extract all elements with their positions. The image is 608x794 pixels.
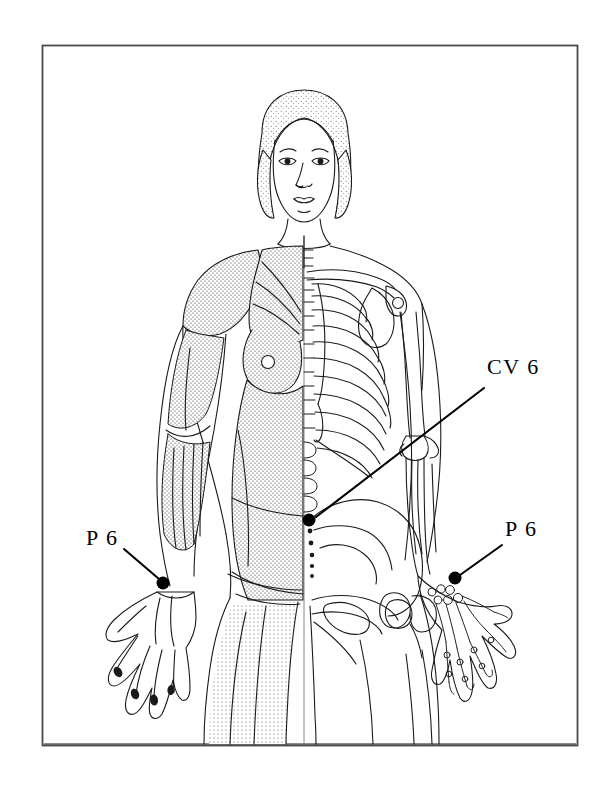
nipple [262,356,275,369]
right-torso-contour [422,304,424,390]
left-nail-1 [112,665,125,679]
mouth-lower [294,199,314,203]
left-nail-2 [129,687,140,700]
hair-right-lobe [335,150,352,218]
costal-margin [316,440,368,476]
left-leg-mass [209,602,298,744]
anatomy-illustration [0,0,608,794]
left-finger-line-2 [136,646,150,694]
left-waist-contour [226,534,231,598]
left-wrist-band [157,592,194,598]
body-figure [106,90,516,744]
humerus-shaft-lateral [401,312,410,438]
sternum [318,284,325,404]
eyebrow-right [312,149,328,152]
pubic-arch-lower [312,612,382,634]
nostril-right [307,184,312,186]
forearm-line-a [412,460,416,554]
right-leg-inner [310,606,316,744]
right-hand-outline [418,576,516,701]
pupil-left [285,158,291,164]
cv6-point-marker[interactable] [303,514,316,527]
left-upper-arm-mass [168,330,224,428]
left-palm-crease-1 [155,598,160,644]
nostril-left [296,185,303,187]
label-cv6: CV 6 [487,356,540,378]
left-palm-crease-2 [171,596,174,646]
spine-group [304,236,317,744]
neck-left [278,219,288,244]
nose [296,163,306,188]
scapula [359,288,394,347]
xiphoid [314,404,323,442]
p6-right-leader-line [460,545,502,575]
skeletal-half [307,246,516,744]
ilium-outer [388,540,423,616]
obturator-foramen [324,602,370,634]
sacrum-segments [308,529,315,578]
p6-left-point-marker[interactable] [157,577,170,590]
femur-shaft-lateral [422,650,432,744]
chin-crease [298,211,310,213]
left-thumb-line [118,606,146,632]
p6-left-leader-line [124,549,159,579]
pupil-right [318,158,324,164]
iliac-crest [312,500,418,540]
neck-right [320,219,330,244]
muscular-half [106,246,303,744]
vertebrae-stack [304,250,317,512]
hair-shape [258,90,351,214]
clavicle [307,270,396,290]
hair-left-lobe [257,150,274,218]
ilium-fossa [320,545,377,584]
ulna [424,458,430,574]
p6-right-point-marker[interactable] [449,572,462,585]
eyebrow-left [280,149,296,152]
label-p6-right: P 6 [505,518,537,540]
mouth-upper [294,197,314,199]
left-finger-line-3 [154,650,162,700]
head-group [257,90,351,249]
humeral-head [393,298,404,309]
left-abdomen [232,380,303,600]
forearm-line-c [432,464,436,552]
label-p6-left: P 6 [86,527,118,549]
ribcage [312,284,391,478]
face-outline [273,140,334,222]
femur-shaft-medial [406,654,414,744]
acupuncture-point-diagram: CV 6 P 6 P 6 [0,0,608,794]
right-groin-crease [314,622,356,664]
femur-neck [410,624,422,658]
right-thigh-inner-contour [360,640,373,744]
right-shoulder-contour [330,246,422,304]
